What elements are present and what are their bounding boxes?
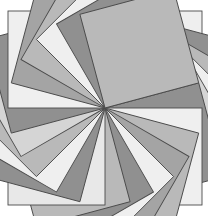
square-petal-group (0, 0, 208, 216)
rosette-svg (0, 0, 208, 216)
rosette-figure (0, 0, 208, 216)
